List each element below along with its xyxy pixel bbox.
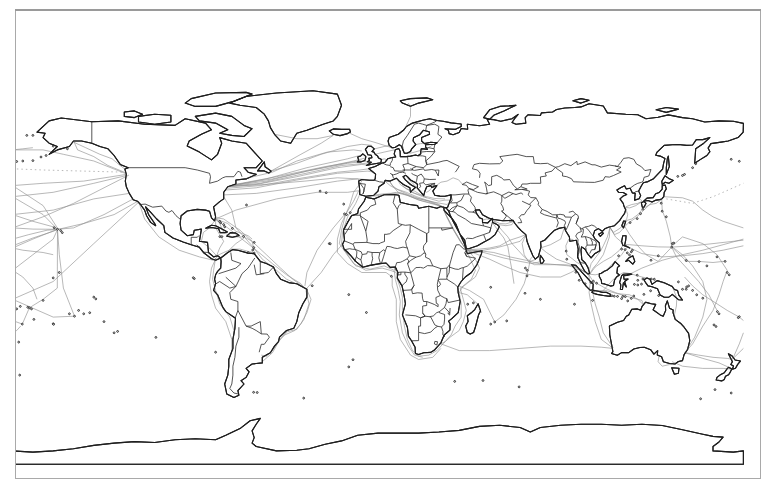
island-marker <box>52 277 54 279</box>
island-marker <box>630 298 632 300</box>
cable-nz-pacific <box>733 333 744 359</box>
island-marker <box>32 160 34 162</box>
landmass-japan-honshu <box>644 185 667 202</box>
island-marker <box>344 213 346 215</box>
cable-transpacific-7 <box>13 175 129 228</box>
island-marker <box>243 236 245 238</box>
island-marker <box>632 249 634 251</box>
cable-west-pacific-far-2 <box>13 197 58 229</box>
island-marker <box>574 303 576 305</box>
island-marker <box>117 331 119 333</box>
island-marker <box>246 204 248 206</box>
island-marker <box>650 290 652 292</box>
cable-japan-east <box>664 197 744 228</box>
island-marker <box>16 308 18 310</box>
island-marker <box>53 323 55 325</box>
island-marker <box>26 135 28 137</box>
island-marker <box>540 298 542 300</box>
island-marker <box>642 208 644 210</box>
cable-transpacific-8 <box>13 202 139 299</box>
island-marker <box>566 258 568 260</box>
cable-east-asia-6 <box>610 227 623 244</box>
cable-japan-korea <box>640 199 642 202</box>
island-marker <box>730 158 732 160</box>
island-marker <box>633 295 635 297</box>
island-marker <box>692 167 694 169</box>
island-marker <box>346 214 348 216</box>
cable-pacific-east-5 <box>13 228 58 229</box>
island-marker <box>21 323 23 325</box>
cable-australia-nz-1 <box>685 353 733 360</box>
island-marker <box>661 210 663 212</box>
island-marker <box>618 255 620 257</box>
island-marker <box>61 232 63 234</box>
island-marker <box>74 315 76 317</box>
island-marker <box>83 313 85 315</box>
island-marker <box>253 247 255 249</box>
island-marker <box>19 374 21 376</box>
island-marker <box>348 366 350 368</box>
cable-dashed-north-pacific <box>13 169 127 172</box>
landmass-antarctica <box>13 418 744 464</box>
island-marker <box>518 386 520 388</box>
island-marker <box>686 286 688 288</box>
island-marker <box>657 255 659 257</box>
island-marker <box>192 277 194 279</box>
world-map[interactable] <box>0 0 771 487</box>
island-marker <box>53 227 55 229</box>
cable-pacific-east-4 <box>13 230 58 246</box>
island-marker <box>637 284 639 286</box>
island-marker <box>155 337 157 339</box>
cable-indian-ocean-south <box>441 344 613 351</box>
island-marker <box>103 321 105 323</box>
landmass-borneo <box>599 262 619 287</box>
cable-dashed-west-pacific <box>666 183 743 203</box>
island-marker <box>467 303 469 305</box>
land-layer <box>13 91 744 465</box>
island-marker <box>706 265 708 267</box>
island-marker <box>660 202 662 204</box>
island-marker <box>700 398 702 400</box>
cable-transpacific-2 <box>13 176 127 197</box>
island-marker <box>622 296 624 298</box>
island-marker <box>32 135 34 137</box>
island-marker <box>629 254 631 256</box>
cable-indian-ocean-cross <box>495 256 534 322</box>
island-marker <box>348 294 350 296</box>
island-marker <box>253 242 255 244</box>
island-marker <box>506 320 508 322</box>
island-marker <box>592 300 594 302</box>
island-marker <box>737 317 739 319</box>
island-marker <box>626 252 628 254</box>
cable-guam-hawaii <box>672 240 744 247</box>
island-marker <box>653 278 655 280</box>
island-marker <box>113 332 115 334</box>
island-marker <box>319 190 321 192</box>
island-marker <box>526 275 528 277</box>
island-marker <box>637 279 639 281</box>
cable-pacific-tail <box>13 248 54 255</box>
island-marker <box>219 220 221 222</box>
island-marker <box>578 279 580 281</box>
island-marker <box>490 286 492 288</box>
island-marker <box>93 296 95 298</box>
cable-south-atlantic-1 <box>306 244 343 289</box>
island-marker <box>617 296 619 298</box>
cable-pacific-east-1 <box>13 299 75 317</box>
island-marker <box>22 160 24 162</box>
island-marker <box>565 250 567 252</box>
island-marker <box>671 246 673 248</box>
island-marker <box>16 161 18 163</box>
island-marker <box>593 280 595 282</box>
island-marker <box>57 228 59 230</box>
island-marker <box>42 300 44 302</box>
landmass-greenland <box>230 91 342 143</box>
island-marker <box>643 294 645 296</box>
island-marker <box>89 312 91 314</box>
cable-australia-nz-2 <box>685 353 733 369</box>
island-marker <box>677 176 679 178</box>
island-marker <box>224 226 226 228</box>
island-marker <box>454 381 456 383</box>
island-marker <box>252 249 254 251</box>
island-marker <box>636 218 638 220</box>
